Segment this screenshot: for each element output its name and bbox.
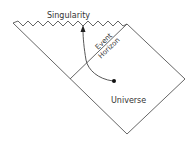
universe-boundary [127,24,185,134]
penrose-diagram: Singularity Event Horizon Universe [0,0,192,142]
singularity-line [13,21,127,26]
observer-dot [112,79,116,83]
singularity-label: Singularity [47,11,90,20]
arrowhead-icon [81,25,86,32]
universe-label: Universe [111,96,146,105]
